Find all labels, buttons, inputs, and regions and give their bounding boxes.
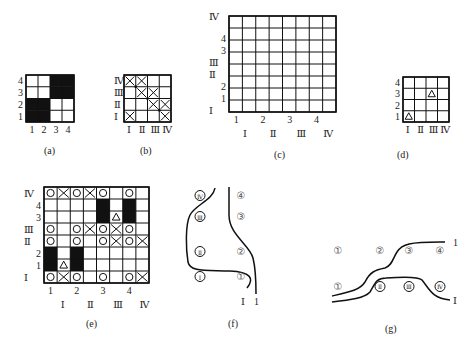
col-label: Ⅳ (440, 124, 451, 135)
col-label: Ⅳ (139, 299, 150, 310)
triangle-icon (405, 113, 412, 119)
row-label: 4 (18, 75, 23, 86)
filled-cell (123, 199, 136, 211)
col-label: 3 (54, 124, 59, 135)
row-label: Ⅳ (24, 188, 35, 199)
col-label: Ⅰ (127, 124, 131, 135)
row-label: Ⅳ (209, 11, 220, 22)
col-label: Ⅰ (61, 299, 65, 310)
row-label: Ⅲ (114, 87, 124, 98)
circled-roman-label: Ⅳ (437, 284, 444, 290)
row-label: Ⅱ (209, 69, 216, 80)
curve-end-label: Ⅰ (241, 296, 245, 307)
curve-end-label: Ⅰ (453, 295, 457, 306)
caption-g: (g) (385, 323, 397, 335)
row-label: 3 (18, 87, 23, 98)
circle-icon (126, 189, 133, 196)
circled-roman-label: Ⅰ (199, 275, 202, 281)
filled-cell (70, 247, 83, 259)
circled-arabic-label: ③ (237, 211, 246, 222)
caption-c: (c) (274, 149, 285, 161)
panel-a-grid: 43211234 (18, 75, 74, 135)
row-label: 3 (395, 88, 400, 99)
filled-cell (44, 259, 57, 271)
circle-icon (126, 237, 133, 244)
circle-icon (126, 273, 133, 280)
filled-cell (123, 211, 136, 223)
col-label: Ⅱ (139, 124, 146, 135)
triangle-icon (112, 213, 120, 220)
col-label: Ⅱ (270, 128, 277, 139)
boundary-curve-roman (332, 277, 450, 302)
col-label: Ⅰ (406, 124, 410, 135)
row-label: 1 (36, 260, 41, 271)
circled-arabic-label: ① (334, 281, 343, 292)
panel-b-grid: ⅣⅢⅡⅠⅠⅡⅢⅣ (114, 75, 173, 135)
col-label: Ⅱ (87, 299, 94, 310)
circled-roman-label: Ⅲ (406, 284, 412, 290)
col-label: 1 (30, 124, 35, 135)
circle-icon (99, 273, 106, 280)
filled-cell (97, 199, 110, 211)
col-label: Ⅱ (417, 124, 424, 135)
col-label: 1 (234, 114, 239, 125)
col-label: 4 (314, 114, 319, 125)
col-label: 2 (260, 114, 265, 125)
filled-cell (50, 75, 62, 87)
filled-cell (38, 110, 50, 122)
curve-end-label: 1 (254, 296, 259, 307)
col-label: Ⅳ (162, 124, 173, 135)
col-label: 1 (48, 285, 53, 296)
panel-c-grid: Ⅳ43ⅢⅡ21Ⅰ1234ⅠⅡⅢⅣ (209, 11, 336, 139)
row-label: Ⅰ (24, 272, 28, 283)
panel-g-boundary-diagram (332, 242, 450, 302)
circle-icon (73, 273, 80, 280)
circled-arabic-label: ① (237, 271, 246, 282)
col-label: 3 (287, 114, 292, 125)
circled-arabic-label: ① (334, 245, 343, 256)
circle-icon (99, 225, 106, 232)
filled-cell (50, 87, 62, 99)
caption-e: (e) (86, 318, 97, 330)
row-label: 4 (36, 200, 41, 211)
circled-arabic-label: ③ (405, 245, 414, 256)
triangle-icon (60, 261, 68, 268)
col-label: 3 (101, 285, 106, 296)
circle-icon (47, 189, 54, 196)
col-label: Ⅰ (243, 128, 247, 139)
row-label: 1 (18, 111, 23, 122)
col-label: 4 (66, 124, 71, 135)
dot (134, 85, 137, 88)
row-label: Ⅲ (209, 57, 219, 68)
circled-arabic-label: ② (376, 245, 385, 256)
col-label: 4 (127, 285, 132, 296)
circled-arabic-label: ② (237, 246, 246, 257)
dot (146, 97, 149, 100)
row-label: Ⅳ (114, 75, 125, 86)
triangle-icon (428, 90, 435, 96)
filled-cell (62, 75, 74, 87)
circle-icon (73, 189, 80, 196)
col-label: 2 (42, 124, 47, 135)
row-label: 2 (18, 99, 23, 110)
row-label: Ⅱ (114, 99, 121, 110)
col-label: Ⅲ (297, 128, 307, 139)
filled-cell (62, 87, 74, 99)
circled-roman-label: Ⅲ (197, 215, 203, 221)
circle-icon (126, 225, 133, 232)
circle-icon (47, 237, 54, 244)
circled-arabic-label: ④ (237, 190, 246, 201)
filled-cell (26, 99, 38, 111)
col-label: Ⅲ (429, 124, 439, 135)
caption-d: (d) (397, 149, 409, 161)
col-label: Ⅳ (323, 128, 334, 139)
circle-icon (73, 237, 80, 244)
dot (158, 109, 161, 112)
circled-roman-label: Ⅱ (378, 284, 382, 290)
row-label: 1 (395, 111, 400, 122)
row-label: 4 (221, 33, 226, 44)
panel-f-labels: ⅣⅢⅡⅠ④③②①Ⅰ1 (195, 190, 259, 307)
row-label: 1 (221, 93, 226, 104)
row-label: 2 (36, 248, 41, 259)
caption-f: (f) (228, 318, 238, 330)
